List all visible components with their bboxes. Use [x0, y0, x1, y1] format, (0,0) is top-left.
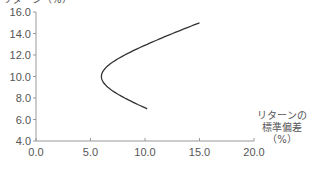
y-axis-ticks: 4.06.08.010.012.014.016.0 — [10, 6, 36, 147]
y-tick-label: 10.0 — [10, 71, 31, 83]
x-axis-title-line: （%） — [267, 134, 297, 145]
y-tick-label: 14.0 — [10, 28, 31, 40]
frontier-curve — [101, 23, 199, 109]
x-tick-label: 15.0 — [189, 146, 210, 158]
x-axis-title-line: リターンの — [257, 110, 307, 121]
x-tick-label: 5.0 — [83, 146, 98, 158]
x-axis-title-line: 標準偏差 — [262, 121, 302, 133]
y-tick-label: 8.0 — [16, 92, 31, 104]
y-axis-title-partial: リターン（%） — [2, 0, 72, 5]
y-tick-label: 16.0 — [10, 6, 31, 18]
y-axis-title: リターン（%） — [2, 0, 72, 5]
x-tick-label: 10.0 — [134, 146, 155, 158]
y-tick-label: 6.0 — [16, 114, 31, 126]
axes — [36, 12, 254, 141]
x-axis-title: リターンの標準偏差（%） — [257, 110, 307, 145]
x-tick-label: 0.0 — [28, 146, 43, 158]
y-tick-label: 12.0 — [10, 49, 31, 61]
frontier-chart: リターン（%） 4.06.08.010.012.014.016.0 0.05.0… — [0, 0, 316, 171]
x-tick-label: 20.0 — [243, 146, 264, 158]
